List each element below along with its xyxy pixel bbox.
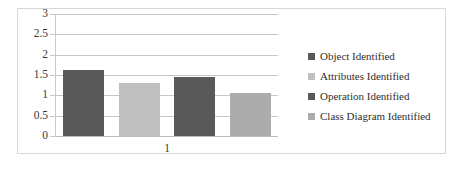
y-axis-tick-label: 0.5 bbox=[14, 110, 48, 122]
gridline bbox=[56, 136, 278, 137]
y-axis-tick-mark bbox=[50, 55, 55, 56]
x-axis-tick-label: 1 bbox=[164, 142, 170, 154]
y-axis-tick-mark bbox=[50, 95, 55, 96]
y-axis-tick-label: 2.5 bbox=[14, 29, 48, 41]
legend-item-label: Object Identified bbox=[320, 51, 395, 62]
x-axis-labels: 1 bbox=[56, 138, 278, 156]
bar-chart-figure: 32.521.510.50 1 Object IdentifiedAttribu… bbox=[0, 0, 455, 169]
bar bbox=[174, 77, 215, 136]
y-axis-tick-mark bbox=[50, 75, 55, 76]
y-axis-labels: 32.521.510.50 bbox=[8, 14, 48, 136]
y-axis-tick-label: 1.5 bbox=[14, 69, 48, 81]
bars-group bbox=[56, 14, 278, 136]
y-axis-tick-label: 1 bbox=[14, 90, 48, 102]
y-axis-tick-mark bbox=[50, 34, 55, 35]
y-axis-tick-mark bbox=[50, 14, 55, 15]
legend-item[interactable]: Attributes Identified bbox=[308, 67, 440, 85]
legend-swatch-icon bbox=[308, 73, 315, 80]
legend-swatch-icon bbox=[308, 93, 315, 100]
legend-item-label: Attributes Identified bbox=[320, 71, 410, 82]
y-axis-tick-label: 0 bbox=[14, 130, 48, 142]
plot-area bbox=[56, 14, 278, 136]
chart-legend: Object IdentifiedAttributes IdentifiedOp… bbox=[308, 47, 440, 127]
bar bbox=[63, 70, 104, 136]
y-axis-tick-label: 2 bbox=[14, 49, 48, 61]
y-axis-tick-mark bbox=[50, 136, 55, 137]
legend-item[interactable]: Operation Identified bbox=[308, 87, 440, 105]
legend-item[interactable]: Object Identified bbox=[308, 47, 440, 65]
y-axis-tick-label: 3 bbox=[14, 8, 48, 20]
legend-swatch-icon bbox=[308, 113, 315, 120]
legend-item-label: Operation Identified bbox=[320, 91, 410, 102]
legend-item[interactable]: Class Diagram Identified bbox=[308, 107, 440, 125]
bar bbox=[230, 93, 271, 136]
legend-item-label: Class Diagram Identified bbox=[320, 111, 431, 122]
legend-swatch-icon bbox=[308, 53, 315, 60]
y-axis-tick-mark bbox=[50, 116, 55, 117]
bar bbox=[119, 83, 160, 136]
